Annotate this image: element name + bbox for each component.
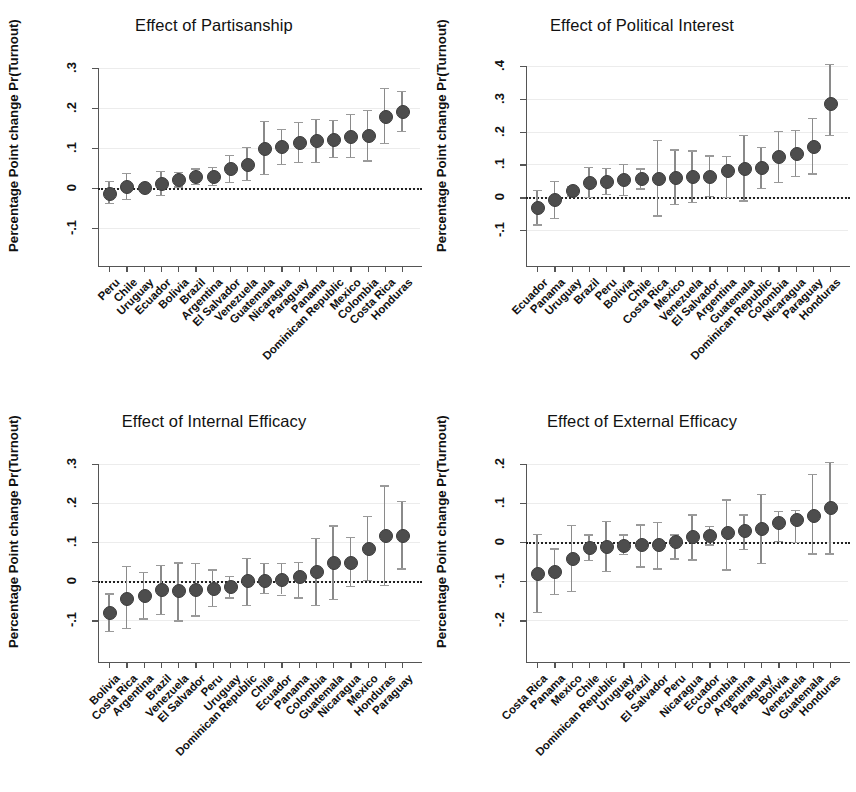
ci-upper-cap bbox=[653, 522, 662, 523]
y-axis-label: Percentage Point change Pr(Turnout) bbox=[6, 46, 21, 252]
ci-lower-cap bbox=[294, 162, 303, 163]
y-tick-label: 0 bbox=[64, 566, 79, 596]
ci-upper-cap bbox=[294, 122, 303, 123]
ci-upper-cap bbox=[225, 576, 234, 577]
data-point-marker bbox=[807, 140, 821, 154]
x-tick-mark bbox=[709, 266, 710, 272]
x-tick-mark bbox=[554, 662, 555, 668]
axis-corner-stub bbox=[98, 228, 99, 266]
x-tick-mark bbox=[744, 266, 745, 272]
ci-upper-cap bbox=[208, 569, 217, 570]
data-point-marker bbox=[669, 171, 683, 185]
ci-lower-cap bbox=[722, 197, 731, 198]
x-tick-mark bbox=[572, 266, 573, 272]
y-tick-mark bbox=[92, 542, 98, 543]
gridline bbox=[526, 464, 848, 465]
data-point-marker bbox=[103, 187, 117, 201]
data-point-marker bbox=[241, 574, 255, 588]
ci-upper-cap bbox=[722, 499, 731, 500]
y-tick-mark bbox=[520, 164, 526, 165]
data-point-marker bbox=[703, 529, 717, 543]
axis-corner-stub bbox=[526, 620, 527, 662]
x-tick-mark bbox=[402, 662, 403, 668]
ci-upper-cap bbox=[550, 181, 559, 182]
x-tick-mark bbox=[368, 266, 369, 272]
panel-title: Effect of External Efficacy bbox=[428, 412, 856, 431]
ci-lower-cap bbox=[584, 560, 593, 561]
x-axis-line bbox=[98, 662, 422, 663]
x-tick-mark bbox=[213, 662, 214, 668]
ci-upper-cap bbox=[156, 565, 165, 566]
ci-lower-cap bbox=[757, 563, 766, 564]
ci-upper-cap bbox=[242, 558, 251, 559]
ci-lower-cap bbox=[329, 599, 338, 600]
gridline bbox=[98, 68, 420, 69]
data-point-marker bbox=[138, 181, 152, 195]
ci-upper-cap bbox=[602, 521, 611, 522]
ci-lower-cap bbox=[105, 203, 114, 204]
ci-lower-cap bbox=[670, 558, 679, 559]
data-point-marker bbox=[790, 513, 804, 527]
ci-lower-cap bbox=[380, 143, 389, 144]
ci-upper-cap bbox=[311, 538, 320, 539]
ci-upper-cap bbox=[739, 514, 748, 515]
y-axis-line bbox=[98, 464, 99, 621]
ci-lower-cap bbox=[311, 162, 320, 163]
y-tick-label: .3 bbox=[492, 83, 507, 113]
x-tick-mark bbox=[692, 266, 693, 272]
data-point-marker bbox=[241, 158, 255, 172]
ci-lower-cap bbox=[619, 554, 628, 555]
x-tick-mark bbox=[623, 266, 624, 272]
data-point-marker bbox=[310, 565, 324, 579]
ci-upper-cap bbox=[619, 164, 628, 165]
ci-lower-cap bbox=[139, 618, 148, 619]
x-tick-mark bbox=[641, 266, 642, 272]
y-axis-line bbox=[526, 66, 527, 230]
ci-lower-cap bbox=[208, 185, 217, 186]
ci-lower-cap bbox=[722, 569, 731, 570]
ci-lower-cap bbox=[242, 605, 251, 606]
data-point-marker bbox=[275, 140, 289, 154]
x-tick-mark bbox=[813, 662, 814, 668]
ci-upper-cap bbox=[791, 130, 800, 131]
data-point-marker bbox=[155, 177, 169, 191]
y-tick-label: -.2 bbox=[492, 605, 507, 635]
ci-lower-cap bbox=[636, 188, 645, 189]
ci-upper-cap bbox=[277, 563, 286, 564]
data-point-marker bbox=[120, 180, 134, 194]
data-point-marker bbox=[189, 170, 203, 184]
x-tick-mark bbox=[658, 662, 659, 668]
ci-upper-cap bbox=[329, 525, 338, 526]
data-point-marker bbox=[790, 147, 804, 161]
panel-bottom-right: Effect of External EfficacyPercentage Po… bbox=[428, 396, 856, 792]
x-tick-mark bbox=[709, 662, 710, 668]
y-tick-label: .3 bbox=[64, 448, 79, 478]
y-axis-label: Percentage Point change Pr(Turnout) bbox=[434, 442, 449, 648]
ci-lower-cap bbox=[225, 597, 234, 598]
data-point-marker bbox=[824, 501, 838, 515]
ci-upper-cap bbox=[619, 534, 628, 535]
y-tick-label: 0 bbox=[492, 182, 507, 212]
data-point-marker bbox=[207, 170, 221, 184]
x-tick-mark bbox=[589, 266, 590, 272]
ci-upper-cap bbox=[688, 150, 697, 151]
ci-upper-cap bbox=[363, 110, 372, 111]
x-tick-mark bbox=[572, 662, 573, 668]
ci-lower-cap bbox=[774, 541, 783, 542]
gridline bbox=[98, 503, 420, 504]
ci-upper-cap bbox=[346, 114, 355, 115]
gridline bbox=[526, 581, 848, 582]
data-point-marker bbox=[531, 201, 545, 215]
ci-upper-cap bbox=[122, 173, 131, 174]
panel-title: Effect of Partisanship bbox=[0, 16, 428, 35]
x-tick-mark bbox=[161, 662, 162, 668]
data-point-marker bbox=[396, 529, 410, 543]
ci-upper-cap bbox=[311, 119, 320, 120]
x-tick-mark bbox=[830, 266, 831, 272]
y-tick-label: -.1 bbox=[64, 605, 79, 635]
data-point-marker bbox=[362, 542, 376, 556]
x-tick-mark bbox=[299, 662, 300, 668]
y-tick-label: .1 bbox=[64, 527, 79, 557]
x-tick-mark bbox=[554, 266, 555, 272]
x-tick-mark bbox=[316, 266, 317, 272]
